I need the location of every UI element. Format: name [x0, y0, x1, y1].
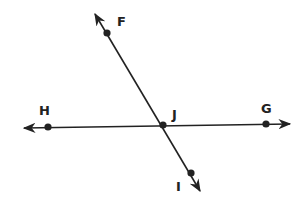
point-j [159, 121, 166, 128]
point-f [103, 29, 110, 36]
label-j: J [171, 107, 177, 122]
point-g [262, 120, 269, 127]
label-i: I [176, 179, 181, 194]
label-g: G [261, 101, 272, 116]
point-i [187, 169, 194, 176]
line-hg [24, 124, 290, 128]
intersecting-lines-diagram: F H J G I [0, 0, 304, 203]
line-fi [95, 14, 200, 191]
label-h: H [39, 103, 50, 118]
point-h [44, 123, 51, 130]
label-f: F [117, 14, 126, 29]
